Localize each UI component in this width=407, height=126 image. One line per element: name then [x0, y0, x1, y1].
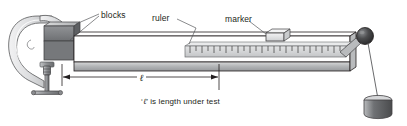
caption-rest: ’ is length under test: [146, 97, 220, 106]
label-length-symbol: ℓ: [137, 73, 146, 83]
dimension-arrow-right: [211, 75, 218, 80]
ball-specular-highlight: [359, 31, 364, 35]
measuring-ruler: [185, 42, 352, 57]
block-lower: [44, 41, 74, 60]
label-ruler: ruler: [152, 13, 170, 23]
t-handle-knob-left: [31, 91, 35, 95]
caption-length-under-test: ‘ℓ’ is length under test: [141, 97, 220, 106]
bar-top-face: [74, 32, 356, 36]
label-marker: marker: [225, 14, 252, 24]
apparatus-diagram: blocks ruler marker ℓ ‘ℓ’ is length unde…: [0, 0, 407, 126]
bar-bottom-edge: [74, 62, 350, 71]
block-upper: [44, 26, 74, 41]
clamp-screw-collar: [44, 66, 51, 75]
clamp-screw-shaft: [45, 75, 49, 93]
sliding-marker[interactable]: [266, 29, 290, 41]
dimension-arrow-left: [63, 75, 70, 80]
end-ball: [357, 28, 374, 45]
clamp-thread-detail: [27, 40, 34, 49]
suspension-wire: [368, 43, 378, 99]
hanging-weight: [364, 100, 392, 119]
ruler-top-face: [185, 42, 352, 46]
clamp-t-handle: [33, 91, 61, 94]
label-blocks: blocks: [101, 10, 126, 20]
t-handle-knob-right: [58, 91, 62, 95]
diagram-canvas: [0, 0, 407, 126]
marker-body: [266, 33, 284, 41]
